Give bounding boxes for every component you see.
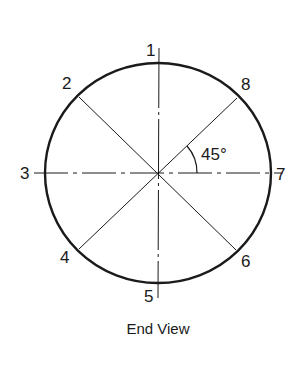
position-label-2: 2 <box>62 74 71 93</box>
position-label-4: 4 <box>60 248 69 267</box>
position-label-7: 7 <box>276 165 285 184</box>
position-label-3: 3 <box>20 164 29 183</box>
position-label-8: 8 <box>241 75 250 94</box>
caption: End View <box>126 320 189 337</box>
end-view-diagram: 1 2 3 4 5 6 7 8 45° End View <box>0 0 300 374</box>
position-label-5: 5 <box>144 287 153 306</box>
angle-arc <box>187 146 197 173</box>
position-label-6: 6 <box>241 252 250 271</box>
angle-label: 45° <box>201 145 227 164</box>
position-label-1: 1 <box>146 41 155 60</box>
